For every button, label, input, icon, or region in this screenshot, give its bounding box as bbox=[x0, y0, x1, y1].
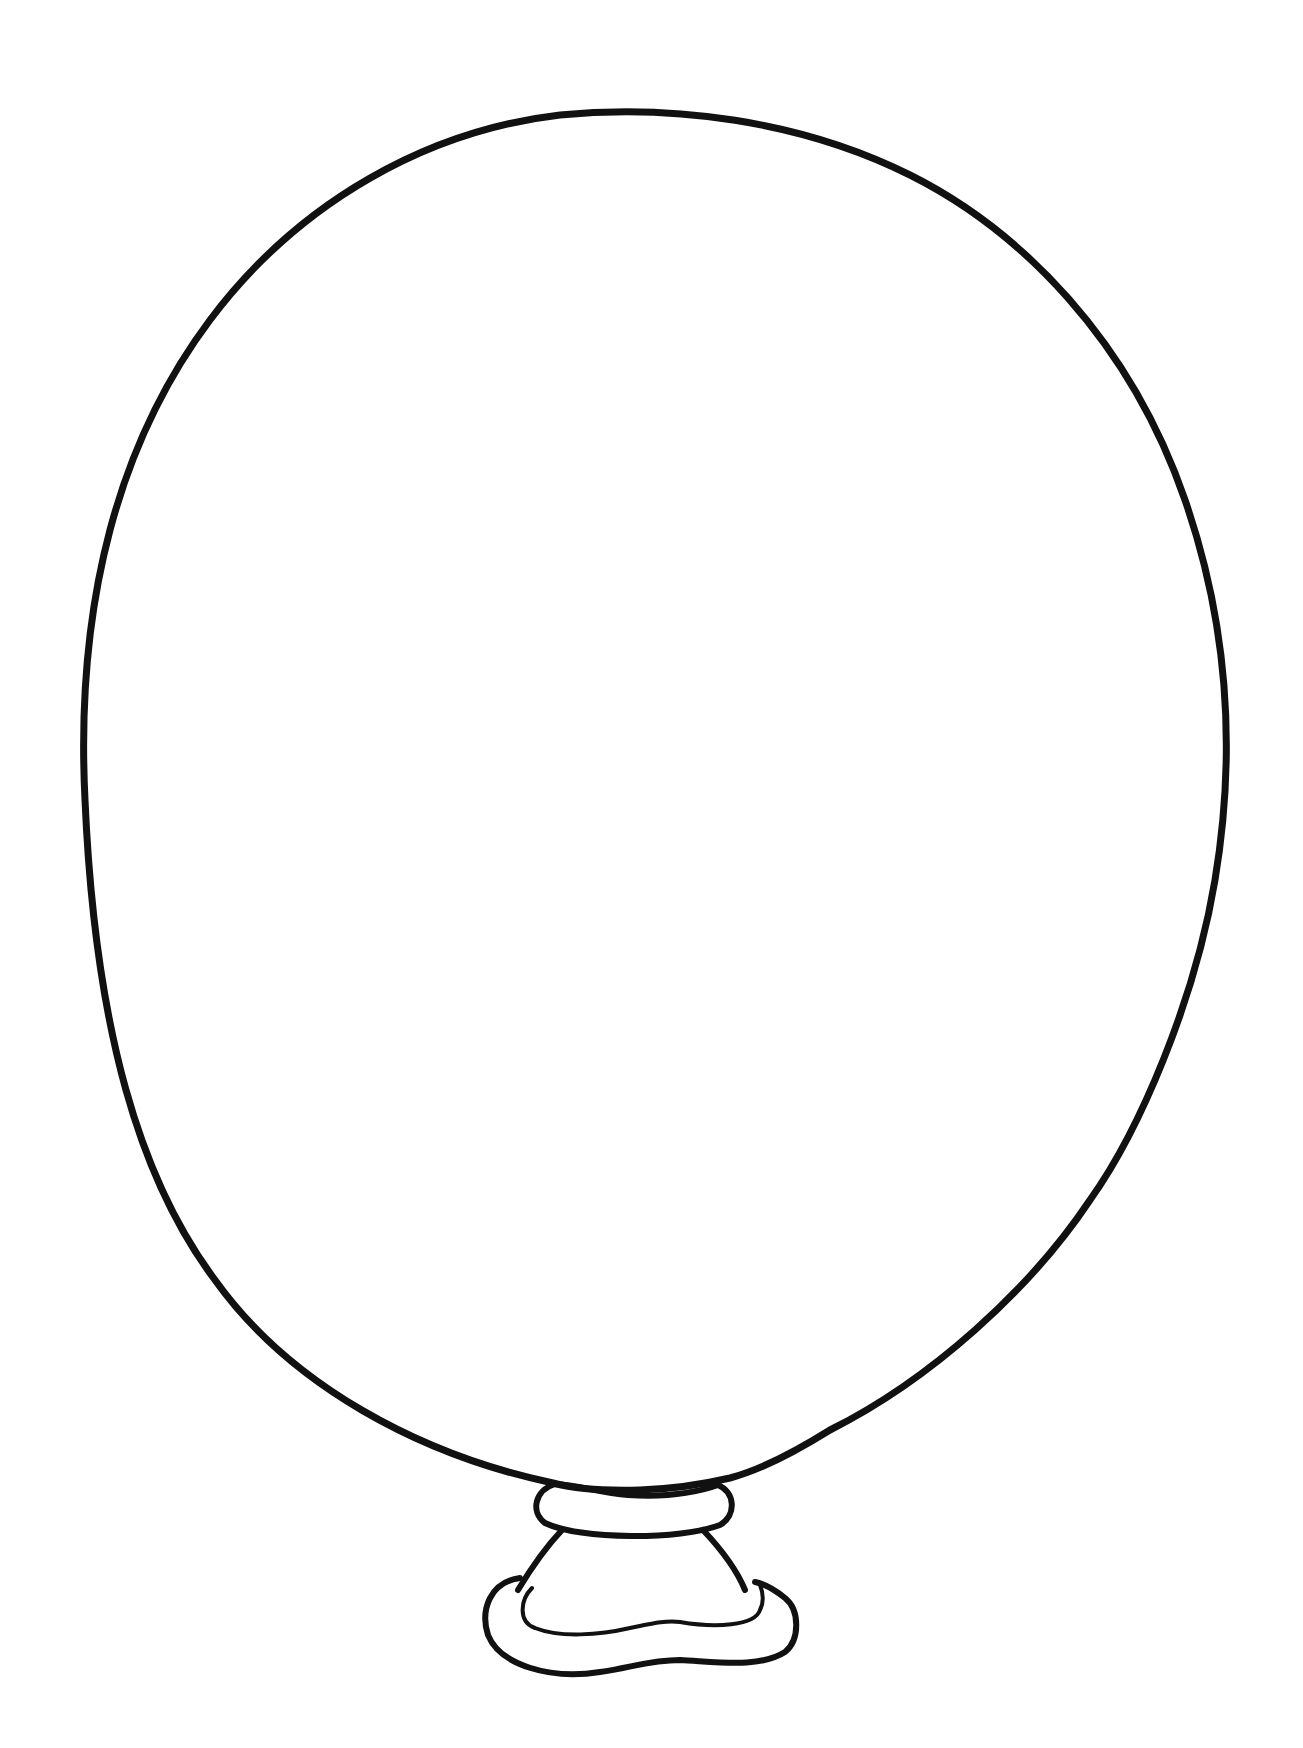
coloring-page bbox=[0, 0, 1303, 1748]
balloon-illustration bbox=[0, 0, 1303, 1748]
background bbox=[0, 0, 1303, 1748]
